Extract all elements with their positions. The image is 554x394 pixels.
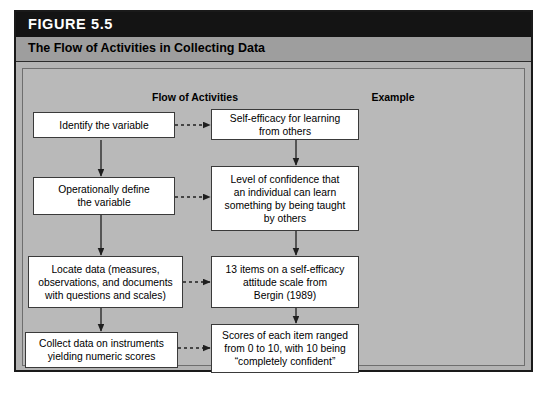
column-header-flow-of-activities: Flow of Activities [115, 91, 275, 103]
flow-box-step-1-label: Identify the variable [59, 119, 148, 132]
flow-box-step-4-label: Collect data on instruments yielding num… [39, 337, 164, 363]
flow-box-step-4: Collect data on instruments yielding num… [25, 332, 178, 368]
flow-box-step-3: Locate data (measures, observations, and… [28, 256, 183, 308]
example-box-4: Scores of each item ranged from 0 to 10,… [211, 324, 359, 373]
example-box-2: Level of confidence that an individual c… [211, 166, 359, 231]
flow-box-step-2-label: Operationally define the variable [58, 183, 150, 209]
flow-box-step-1: Identify the variable [33, 112, 175, 138]
figure-subtitle-bar: The Flow of Activities in Collecting Dat… [16, 37, 531, 62]
figure-frame: FIGURE 5.5 The Flow of Activities in Col… [14, 10, 533, 372]
example-box-4-label: Scores of each item ranged from 0 to 10,… [222, 329, 348, 368]
example-box-1: Self-efficacy for learning from others [211, 109, 359, 140]
example-box-3-label: 13 items on a self-efficacy attitude sca… [226, 263, 345, 302]
example-box-1-label: Self-efficacy for learning from others [230, 112, 340, 138]
column-header-example: Example [313, 91, 473, 103]
diagram-panel: Flow of Activities Example [22, 68, 525, 366]
flow-box-step-2: Operationally define the variable [33, 177, 175, 215]
flow-box-step-3-label: Locate data (measures, observations, and… [38, 263, 173, 302]
example-box-3: 13 items on a self-efficacy attitude sca… [211, 256, 359, 308]
figure-title-bar: FIGURE 5.5 [16, 12, 531, 37]
example-box-2-label: Level of confidence that an individual c… [225, 173, 346, 225]
figure-label: FIGURE 5.5 [28, 16, 113, 32]
figure-subtitle: The Flow of Activities in Collecting Dat… [28, 41, 265, 55]
